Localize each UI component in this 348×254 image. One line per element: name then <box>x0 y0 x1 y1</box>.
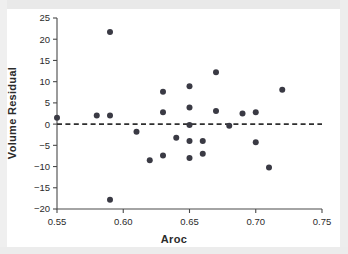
scatter-point <box>200 138 206 144</box>
scatter-point <box>187 155 193 161</box>
y-tick-label: −15 <box>34 182 50 193</box>
scatter-point <box>107 113 113 119</box>
scatter-point <box>187 122 193 128</box>
x-tick-label: 0.70 <box>247 216 266 227</box>
scatter-point <box>240 111 246 117</box>
scatter-point <box>187 138 193 144</box>
y-tick-label: 10 <box>39 76 50 87</box>
scatter-point <box>160 153 166 159</box>
y-axis-tick-labels: −20−15−10−50510152025 <box>34 12 50 214</box>
y-tick-label: 15 <box>39 55 50 66</box>
scatter-point <box>226 123 232 129</box>
scatter-point <box>213 108 219 114</box>
scatter-point <box>187 105 193 111</box>
scatter-point <box>134 129 140 135</box>
scatter-point <box>200 151 206 157</box>
scatter-point <box>187 83 193 89</box>
y-tick-label: 5 <box>45 97 50 108</box>
scatter-point <box>107 29 113 35</box>
scatter-point <box>279 87 285 93</box>
x-tick-label: 0.60 <box>114 216 133 227</box>
y-axis-title: Volume Residual <box>6 67 18 159</box>
scatter-point <box>107 197 113 203</box>
y-tick-label: −5 <box>39 140 50 151</box>
scatter-point <box>253 109 259 115</box>
scatter-plot: −20−15−10−50510152025 0.550.600.650.700.… <box>0 0 348 254</box>
x-tick-label: 0.65 <box>180 216 199 227</box>
scatter-point <box>160 89 166 95</box>
scatter-point <box>94 113 100 119</box>
x-tick-label: 0.55 <box>48 216 67 227</box>
scatter-point <box>213 69 219 75</box>
x-tick-label: 0.75 <box>313 216 332 227</box>
scatter-point <box>266 164 272 170</box>
chart-figure: −20−15−10−50510152025 0.550.600.650.700.… <box>0 0 348 254</box>
data-points <box>54 29 285 203</box>
scatter-point <box>160 109 166 115</box>
x-axis-tick-labels: 0.550.600.650.700.75 <box>48 216 332 227</box>
y-tick-label: 0 <box>45 119 50 130</box>
x-axis-title: Aroc <box>161 233 187 245</box>
scatter-point <box>253 139 259 145</box>
x-axis-ticks <box>57 209 322 213</box>
y-axis-ticks <box>53 18 57 209</box>
scatter-point <box>54 115 60 121</box>
scatter-point <box>147 157 153 163</box>
y-tick-label: 20 <box>39 34 50 45</box>
y-tick-label: −10 <box>34 161 50 172</box>
y-tick-label: −20 <box>34 203 50 214</box>
scatter-point <box>173 135 179 141</box>
y-tick-label: 25 <box>39 12 50 23</box>
